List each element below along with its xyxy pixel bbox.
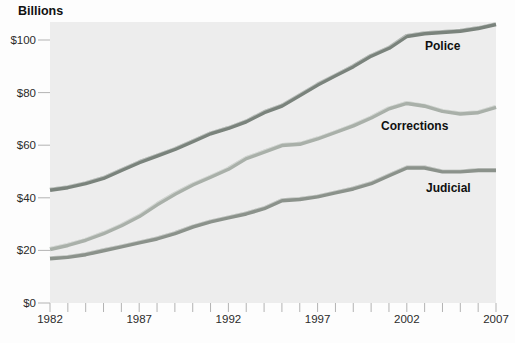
plot-area (50, 22, 496, 303)
x-axis-label: 1992 (216, 313, 242, 325)
y-axis-label: $100 (0, 33, 36, 47)
series-label-police: Police (425, 39, 460, 53)
y-axis-label: $60 (0, 138, 36, 152)
chart-container: Billions $0$20$40$60$80$100 198219871992… (0, 0, 515, 343)
x-axis-label: 2002 (394, 313, 420, 325)
series-label-corrections: Corrections (381, 119, 448, 133)
x-axis-label: 1982 (37, 313, 63, 325)
x-axis-label: 1987 (126, 313, 152, 325)
y-axis-label: $40 (0, 191, 36, 205)
x-axis-label: 1997 (305, 313, 331, 325)
series-label-judicial: Judicial (426, 181, 471, 195)
y-axis-label: $80 (0, 86, 36, 100)
y-axis-label: $0 (0, 296, 36, 310)
y-axis-label: $20 (0, 243, 36, 257)
x-axis-label: 2007 (483, 313, 509, 325)
